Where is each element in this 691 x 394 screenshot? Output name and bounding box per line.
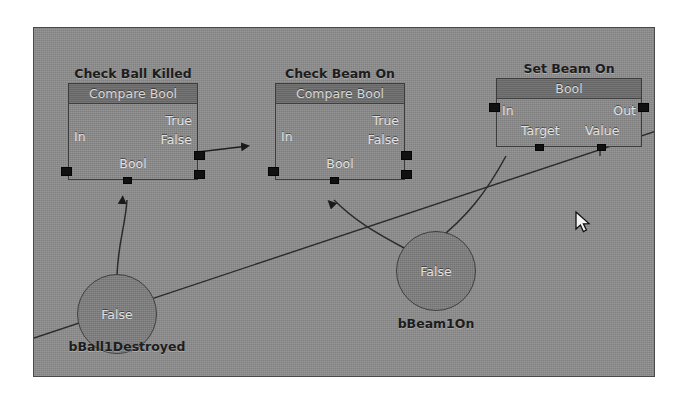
pin-label-target: Target bbox=[521, 123, 560, 138]
pin-in[interactable] bbox=[61, 167, 72, 176]
pin-label-type: Bool bbox=[69, 156, 197, 171]
pin-true[interactable] bbox=[194, 151, 205, 160]
node-body: In True False Bool bbox=[69, 104, 197, 179]
node-body: In True False Bool bbox=[276, 104, 404, 179]
variable-caption-bbeam1on: bBeam1On bbox=[361, 316, 511, 331]
pin-label-out: Out bbox=[613, 103, 636, 118]
wire-bball1destroyed-to-checkball bbox=[117, 200, 127, 276]
pin-type-bottom[interactable] bbox=[123, 177, 132, 184]
pin-false[interactable] bbox=[401, 170, 412, 179]
node-title: Bool bbox=[497, 79, 641, 99]
pin-value-bottom[interactable] bbox=[597, 144, 606, 151]
node-title: Compare Bool bbox=[276, 84, 404, 104]
pin-label-false: False bbox=[161, 132, 192, 147]
node-check-ball-killed[interactable]: Check Ball Killed Compare Bool In True F… bbox=[68, 83, 198, 180]
pin-label-type: Bool bbox=[276, 156, 404, 171]
node-check-beam-on[interactable]: Check Beam On Compare Bool In True False… bbox=[275, 83, 405, 180]
node-caption: Check Ball Killed bbox=[69, 66, 197, 81]
graph-canvas[interactable]: Check Ball Killed Compare Bool In True F… bbox=[33, 27, 655, 377]
node-caption: Check Beam On bbox=[276, 66, 404, 81]
node-caption: Set Beam On bbox=[497, 61, 641, 76]
pin-label-false: False bbox=[368, 132, 399, 147]
pin-target-bottom[interactable] bbox=[535, 144, 544, 151]
pin-label-in: In bbox=[74, 129, 86, 144]
wire-bbeam1on-to-checkbeam bbox=[334, 200, 406, 249]
pin-label-value: Value bbox=[585, 123, 619, 138]
pin-true[interactable] bbox=[401, 151, 412, 160]
variable-value: False bbox=[420, 264, 451, 279]
pin-type-bottom[interactable] bbox=[330, 177, 339, 184]
pin-false[interactable] bbox=[194, 170, 205, 179]
node-title: Compare Bool bbox=[69, 84, 197, 104]
node-set-beam-on[interactable]: Set Beam On Bool In Out Target Value bbox=[496, 78, 642, 147]
pin-label-true: True bbox=[165, 113, 192, 128]
node-body: In Out Target Value bbox=[497, 99, 641, 146]
pin-label-true: True bbox=[372, 113, 399, 128]
screenshot-root: Check Ball Killed Compare Bool In True F… bbox=[0, 0, 691, 394]
pin-in[interactable] bbox=[268, 167, 279, 176]
variable-value: False bbox=[101, 307, 132, 322]
pin-label-in: In bbox=[502, 103, 514, 118]
pin-out[interactable] bbox=[638, 103, 649, 112]
wire-bbeam1on-to-target bbox=[436, 156, 506, 241]
variable-node-bbeam1on[interactable]: False bbox=[396, 231, 476, 311]
wire-false-to-checkbeam bbox=[198, 146, 248, 152]
variable-caption-bball1destroyed: bBall1Destroyed bbox=[33, 339, 222, 354]
pin-in[interactable] bbox=[489, 103, 500, 112]
pin-label-in: In bbox=[281, 129, 293, 144]
